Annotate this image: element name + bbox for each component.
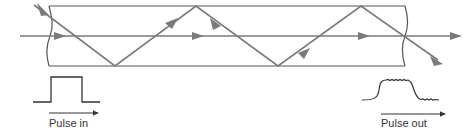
input-pulse (33, 77, 100, 113)
pulse-out-label: Pulse out (381, 117, 427, 129)
dispersed-pulse-waveform (362, 80, 439, 101)
fiber-diagram (0, 0, 470, 135)
arrow-icon (54, 32, 66, 40)
zigzag-ray (34, 3, 443, 66)
arrow-icon (192, 32, 204, 40)
square-pulse-waveform (33, 77, 100, 102)
output-pulse (362, 80, 445, 115)
arrow-icon (358, 32, 370, 40)
arrow-icon (430, 56, 443, 66)
pulse-in-label: Pulse in (49, 117, 88, 129)
arrow-icon (450, 32, 462, 40)
